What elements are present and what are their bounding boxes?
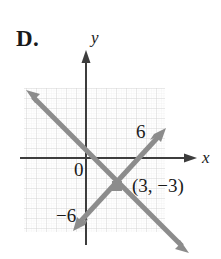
y-tick-label-negative-6: −6	[56, 206, 76, 225]
intersection-point-label: (3, −3)	[132, 176, 184, 195]
origin-label: 0	[74, 160, 84, 179]
x-axis-label: x	[202, 149, 210, 166]
descending-line-arrowhead-lower-right	[175, 240, 189, 253]
y-axis-arrowhead	[82, 50, 91, 63]
intersection-point-marker	[112, 181, 122, 191]
choice-label: D.	[16, 27, 39, 50]
x-tick-label-6: 6	[136, 122, 146, 141]
y-axis-label: y	[91, 29, 99, 46]
graph-figure: D. y x 0 6 −6 (3, −3)	[0, 0, 221, 259]
x-axis-arrowhead	[184, 154, 197, 163]
